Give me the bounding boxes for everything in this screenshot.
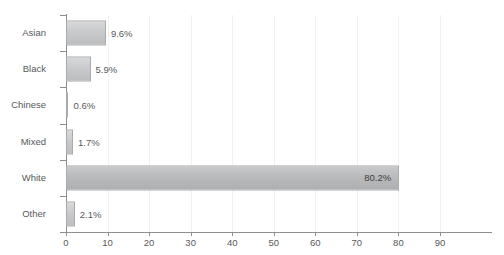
category-label-black: Black (0, 63, 46, 74)
bar-asian[interactable] (66, 21, 106, 46)
bar-container: 9.6% (66, 21, 133, 46)
bar-value-label-chinese: 0.6% (73, 100, 95, 111)
x-tick-label-20: 20 (144, 237, 155, 248)
bar-black[interactable] (66, 57, 91, 82)
x-tick-label-50: 50 (268, 237, 279, 248)
bar-container: 80.2% (66, 165, 399, 190)
x-tick-label-40: 40 (227, 237, 238, 248)
x-tick-mark-70 (357, 232, 358, 236)
bar-container: 2.1% (66, 201, 101, 226)
bar-white[interactable]: 80.2% (66, 165, 399, 190)
x-tick-mark-30 (191, 232, 192, 236)
bar-row: White80.2% (0, 160, 504, 196)
bar-row: Mixed1.7% (0, 124, 504, 160)
bar-value-label-asian: 9.6% (111, 28, 133, 39)
bar-row: Asian9.6% (0, 15, 504, 51)
x-tick-label-0: 0 (63, 237, 68, 248)
bar-container: 0.6% (66, 93, 95, 118)
x-tick-label-10: 10 (102, 237, 113, 248)
bar-row: Chinese0.6% (0, 87, 504, 123)
bar-chart: Asian9.6%Black5.9%Chinese0.6%Mixed1.7%Wh… (0, 0, 504, 255)
bar-container: 5.9% (66, 57, 117, 82)
x-tick-mark-50 (274, 232, 275, 236)
bar-chinese[interactable] (66, 93, 68, 118)
x-tick-mark-20 (149, 232, 150, 236)
bar-container: 1.7% (66, 129, 100, 154)
x-tick-mark-60 (315, 232, 316, 236)
x-tick-mark-90 (440, 232, 441, 236)
bar-value-label-mixed: 1.7% (78, 136, 100, 147)
bar-row: Black5.9% (0, 51, 504, 87)
category-label-mixed: Mixed (0, 136, 46, 147)
bar-value-label-other: 2.1% (80, 208, 102, 219)
bar-row: Other2.1% (0, 196, 504, 232)
bar-mixed[interactable] (66, 129, 73, 154)
x-tick-label-30: 30 (185, 237, 196, 248)
x-tick-mark-40 (232, 232, 233, 236)
x-tick-label-70: 70 (352, 237, 363, 248)
bar-value-label-white: 80.2% (364, 172, 391, 183)
x-tick-mark-10 (108, 232, 109, 236)
x-tick-label-80: 80 (393, 237, 404, 248)
category-label-other: Other (0, 208, 46, 219)
category-label-white: White (0, 172, 46, 183)
x-tick-label-60: 60 (310, 237, 321, 248)
x-tick-mark-0 (66, 232, 67, 236)
category-label-asian: Asian (0, 27, 46, 38)
x-axis-line (66, 232, 492, 233)
category-label-chinese: Chinese (0, 99, 46, 110)
x-tick-mark-80 (398, 232, 399, 236)
bar-other[interactable] (66, 201, 75, 226)
x-tick-label-90: 90 (435, 237, 446, 248)
bar-value-label-black: 5.9% (96, 64, 118, 75)
